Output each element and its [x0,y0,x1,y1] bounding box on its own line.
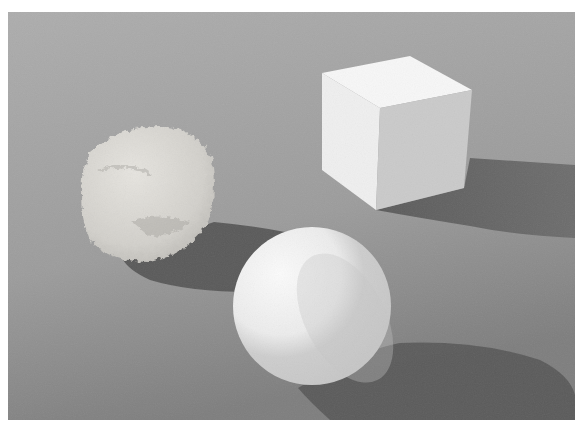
scene-canvas [8,12,575,420]
render-image [8,12,575,420]
